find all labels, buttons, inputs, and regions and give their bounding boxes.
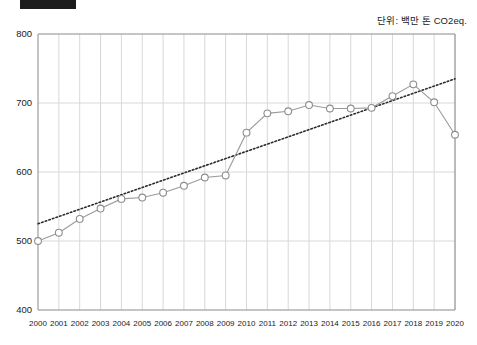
grid-lines [38, 34, 455, 310]
emissions-line-chart: 단위: 백만 톤 CO2eq. 400500600700800 20002001… [0, 0, 477, 345]
y-axis-tick-700: 700 [0, 97, 32, 108]
y-axis-tick-400: 400 [0, 304, 32, 315]
y-axis-tick-800: 800 [0, 28, 32, 39]
y-axis-tick-500: 500 [0, 235, 32, 246]
y-axis-tick-600: 600 [0, 166, 32, 177]
plot-canvas [0, 0, 477, 345]
x-axis-tick-2020: 2020 [442, 319, 468, 328]
